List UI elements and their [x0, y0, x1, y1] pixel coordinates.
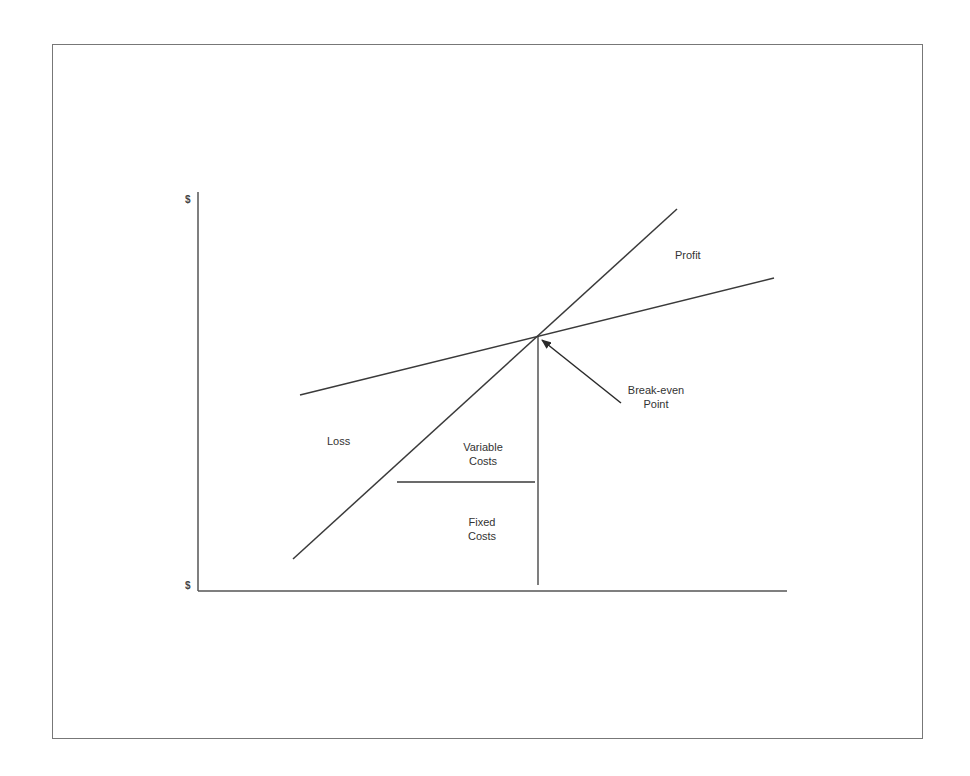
break-even-chart [0, 0, 970, 776]
break-even-label-line1: Break-even [626, 383, 686, 397]
break-even-label-line2: Point [626, 397, 686, 411]
total-cost-line [300, 278, 774, 395]
profit-label: Profit [675, 248, 701, 262]
revenue-line [293, 209, 677, 559]
fixed-costs-label-line1: Fixed [452, 515, 512, 529]
fixed-costs-label: Fixed Costs [452, 515, 512, 543]
break-even-arrow [542, 340, 621, 403]
variable-costs-label-line1: Variable [453, 440, 513, 454]
origin-label: $ [185, 579, 191, 593]
variable-costs-label: Variable Costs [453, 440, 513, 468]
y-axis-top-label: $ [185, 193, 191, 207]
loss-label: Loss [327, 434, 350, 448]
fixed-costs-label-line2: Costs [452, 529, 512, 543]
break-even-label: Break-even Point [626, 383, 686, 411]
variable-costs-label-line2: Costs [453, 454, 513, 468]
